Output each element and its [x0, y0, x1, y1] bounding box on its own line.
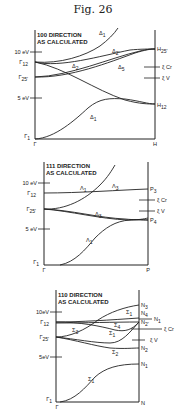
panel-heading-line1: 111 DIRECTION — [46, 163, 90, 169]
band-label-sigma1-upper: Σ1 — [126, 309, 132, 317]
level-gamma12: Γ12 — [27, 190, 36, 198]
level-N1-upper: N1 — [154, 316, 161, 324]
band-label-lambda3-upper: Λ3 — [112, 183, 119, 191]
level-gamma25p: Γ25' — [18, 74, 28, 82]
x-label-H: H — [153, 141, 157, 147]
band-delta2 — [35, 62, 155, 104]
band-label-lambda1-upper: Λ1 — [80, 185, 87, 193]
band-label-delta2: Δ2 — [72, 63, 79, 71]
level-P4: P4 — [150, 217, 157, 225]
band-label-sigma2: Σ2 — [112, 349, 118, 357]
x-label-gamma: Γ — [42, 267, 45, 273]
level-N2: N2 — [141, 345, 148, 353]
level-P3: P3 — [150, 186, 157, 194]
level-gamma1: Γ1 — [24, 133, 30, 141]
band-delta5-b — [35, 49, 155, 77]
band-sigma1-lower — [60, 364, 139, 402]
fermi-v-label: ξ V — [162, 75, 170, 81]
fermi-v-label: ξ V — [157, 208, 165, 214]
level-gamma1: Γ1 — [33, 259, 39, 267]
level-gamma12: Γ12 — [19, 59, 28, 67]
panel-100-direction: 100 DIRECTION AS CALCULATED 10 eV 5 eV Γ… — [14, 28, 172, 147]
band-lambda1-lower — [60, 220, 148, 265]
band-label-delta1-lower: Δ1 — [90, 114, 97, 122]
level-N1-lower: N1 — [141, 361, 148, 369]
band-label-sigma3: Σ3 — [72, 327, 78, 335]
tick-label-5ev: 5 eV — [25, 226, 37, 232]
fermi-v-label: ξ V — [150, 337, 158, 343]
panel-heading-line1: 110 DIRECTION — [58, 292, 102, 298]
band-label-sigma1-middle: Σ1 — [109, 330, 115, 338]
panel-110-direction: 110 DIRECTION AS CALCULATED 10eV 5eV Γ12… — [36, 290, 174, 410]
band-label-sigma1-lower: Σ1 — [88, 376, 94, 384]
x-label-gamma: Γ — [55, 404, 58, 410]
band-label-delta2p: Δ2' — [112, 48, 120, 56]
level-N3: N3 — [141, 302, 148, 310]
tick-label-10ev: 10eV — [36, 309, 49, 315]
band-label-sigma4: Σ4 — [114, 322, 120, 330]
fermi-cr-label: ξ Cr — [157, 197, 167, 203]
fermi-cr-label: ξ Cr — [162, 64, 172, 70]
level-gamma25p: Γ25' — [39, 334, 49, 342]
level-gamma1: Γ1 — [46, 396, 52, 404]
panel-heading-line2: AS CALCULATED — [37, 39, 88, 45]
x-label-gamma: Γ — [33, 141, 36, 147]
x-label-N: N — [141, 400, 145, 406]
panel-111-direction: 111 DIRECTION AS CALCULATED 10 eV 5 eV Γ… — [22, 162, 167, 273]
fermi-cr-label: ξ Cr — [164, 326, 174, 332]
panel-heading-line2: AS CALCULATED — [46, 170, 97, 176]
band-structure-figure: Fig. 26 100 DIRECTION AS CALCULATED 10 e… — [0, 0, 187, 418]
level-N2p: N2' — [141, 319, 149, 327]
band-label-lambda1-lower: Λ1 — [86, 237, 93, 245]
band-lambda3-upper — [44, 189, 148, 193]
tick-label-10ev: 10 eV — [22, 180, 37, 186]
level-H25p: H25' — [157, 46, 168, 54]
tick-label-5ev: 5 eV — [17, 95, 29, 101]
band-delta5-a — [35, 49, 155, 77]
level-gamma12: Γ12 — [40, 319, 49, 327]
x-label-P: P — [146, 267, 150, 273]
level-gamma25p: Γ25' — [26, 206, 36, 214]
figure-title: Fig. 26 — [73, 3, 112, 16]
level-H12: H12 — [157, 102, 167, 110]
band-label-delta1-upper: Δ1 — [99, 30, 106, 38]
panel-heading-line2: AS CALCULATED — [58, 299, 109, 305]
band-label-lambda3-lower: Λ3 — [95, 211, 102, 219]
tick-label-5ev: 5eV — [39, 354, 49, 360]
band-sigma1-middle — [56, 322, 139, 343]
tick-label-10ev: 10 eV — [14, 49, 29, 55]
panel-heading-line1: 100 DIRECTION — [37, 32, 82, 38]
band-label-delta5: Δ5 — [118, 64, 125, 72]
level-N4: N4 — [141, 310, 148, 318]
